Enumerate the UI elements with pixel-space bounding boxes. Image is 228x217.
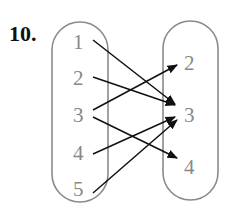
domain-value-4: 4 — [73, 141, 84, 165]
range-value-2: 2 — [184, 51, 195, 75]
domain-value-1: 1 — [73, 30, 84, 54]
range-value-4: 4 — [184, 155, 195, 179]
range-value-3: 3 — [184, 103, 195, 127]
arrow-3-to-2 — [93, 65, 177, 110]
domain-value-2: 2 — [73, 66, 84, 90]
mapping-diagram: 1 2 3 4 5 2 3 4 — [0, 0, 228, 217]
domain-value-3: 3 — [73, 103, 84, 127]
arrow-3-to-4 — [93, 117, 177, 158]
domain-value-5: 5 — [73, 177, 84, 201]
